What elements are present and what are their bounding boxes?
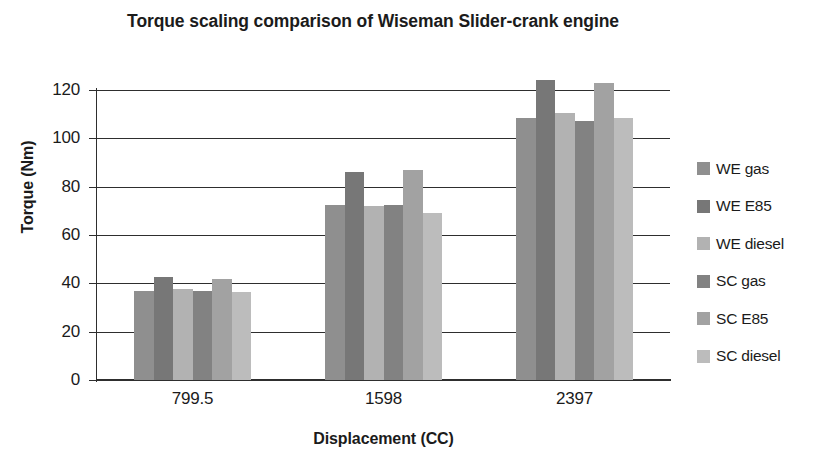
y-tick-mark [89,380,97,381]
bar [212,279,232,381]
x-tick-label: 799.5 [97,389,288,409]
x-tick-label: 1598 [288,389,479,409]
legend-swatch-icon [697,162,710,175]
bar [345,172,365,380]
bar [325,205,345,380]
legend-label: SC E85 [716,310,768,328]
y-tick-label: 120 [26,80,80,100]
bar [575,121,595,380]
chart-title: Torque scaling comparison of Wiseman Sli… [113,8,633,34]
bar [594,83,614,380]
y-tick-label: 80 [26,177,80,197]
bar [516,118,536,380]
bar [134,291,154,380]
bar [423,213,443,380]
y-tick-label: 60 [26,225,80,245]
x-tick-label: 2397 [479,389,670,409]
y-tick-label: 0 [26,370,80,390]
legend-item-we-e85: WE E85 [697,188,821,226]
bar [193,291,213,380]
bar-group [288,90,479,380]
legend-item-sc-diesel: SC diesel [697,338,821,376]
legend-swatch-icon [697,200,710,213]
y-tick-label: 100 [26,128,80,148]
legend-swatch-icon [697,237,710,250]
bar-group [479,90,670,380]
bar [154,277,174,380]
y-tick-mark [89,332,97,333]
bar [614,118,634,380]
x-axis-title: Displacement (CC) [97,430,670,448]
bar [536,80,556,380]
legend-item-sc-gas: SC gas [697,263,821,301]
y-tick-mark [89,187,97,188]
bar [232,292,252,380]
y-tick-label: 20 [26,322,80,342]
legend-item-we-gas: WE gas [697,150,821,188]
y-tick-label: 40 [26,273,80,293]
y-tick-mark [89,90,97,91]
legend-swatch-icon [697,350,710,363]
torque-scaling-bar-chart: Torque scaling comparison of Wiseman Sli… [0,0,826,468]
legend-label: SC gas [716,272,766,290]
bar [173,289,193,380]
legend-swatch-icon [697,275,710,288]
legend-label: WE diesel [716,235,784,253]
bar [384,205,404,380]
bar [403,170,423,380]
y-tick-mark [89,235,97,236]
legend-label: WE E85 [716,197,772,215]
legend-label: SC diesel [716,347,781,365]
plot-area [97,90,670,380]
chart-legend: WE gasWE E85WE dieselSC gasSC E85SC dies… [697,150,821,375]
bar [555,113,575,380]
legend-item-sc-e85: SC E85 [697,300,821,338]
y-tick-mark [89,138,97,139]
bar [364,206,384,380]
bar-group [97,90,288,380]
legend-label: WE gas [716,160,769,178]
legend-item-we-diesel: WE diesel [697,225,821,263]
y-tick-mark [89,283,97,284]
legend-swatch-icon [697,312,710,325]
